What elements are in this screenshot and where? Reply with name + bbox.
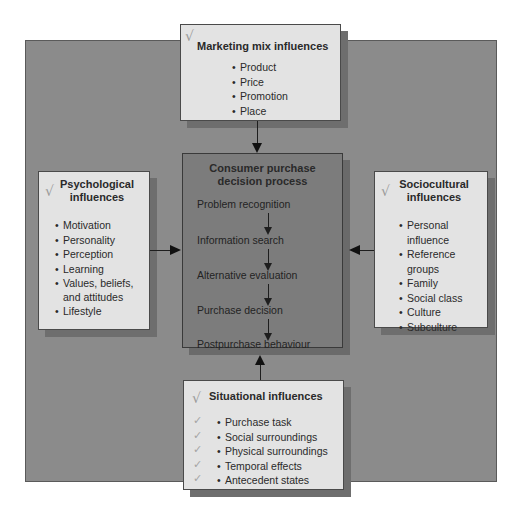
step-information-search: Information search [197,234,284,246]
arrow-situational-to-process [260,363,261,380]
sociocultural-box: √ Sociocultural influences Personal infl… [374,171,488,328]
marketing-mix-list: Product Price Promotion Place [232,60,288,118]
list-item-continuation: and attitudes [55,290,133,305]
psychological-box: √ Psychological influences Motivation Pe… [38,171,150,330]
list-item-text: Antecedent states [225,474,309,486]
list-item: ✓Purchase task [217,415,328,430]
list-item-continuation: groups [399,262,462,277]
check-mark-icon: √ [192,391,201,405]
list-item: Values, beliefs, [55,276,133,291]
list-item: Personality [55,233,133,248]
sociocultural-list: Personal influence Reference groups Fami… [399,218,462,334]
list-item: Motivation [55,218,133,233]
list-item: Promotion [232,89,288,104]
check-mark-icon: ✓ [193,429,202,444]
decision-process-title: Consumer purchase decision process [183,162,342,188]
list-item-continuation: influence [399,233,462,248]
list-item: Lifestyle [55,304,133,319]
list-item: Social class [399,291,462,306]
check-mark-icon: ✓ [193,472,202,487]
arrow-psychological-to-process [150,250,172,251]
arrow-head-up-icon [255,355,265,365]
list-item: Product [232,60,288,75]
step-purchase-decision: Purchase decision [197,304,283,316]
psychological-title: Psychological influences [39,178,149,204]
decision-process-box: Consumer purchase decision process Probl… [182,153,343,348]
marketing-mix-title: Marketing mix influences [197,40,328,53]
list-item: Place [232,104,288,119]
list-item: ✓Physical surroundings [217,444,328,459]
situational-list: ✓Purchase task ✓Social surroundings ✓Phy… [217,415,328,488]
step-alternative-evaluation: Alternative evaluation [197,269,297,281]
arrow-head-down-icon [252,143,262,153]
arrow-head-left-icon [349,245,360,255]
list-item-text: Social surroundings [225,431,317,443]
list-item-text: Purchase task [225,416,292,428]
psychological-list: Motivation Personality Perception Learni… [55,218,133,319]
list-item-text: Temporal effects [225,460,302,472]
sociocultural-title: Sociocultural influences [375,178,487,204]
step-arrow-icon [268,319,269,339]
situational-title: Situational influences [209,390,323,403]
title-line: influences [45,191,149,204]
step-postpurchase-behaviour: Postpurchase behaviour [197,338,310,350]
arrow-head-right-icon [170,245,181,255]
list-item: Culture [399,305,462,320]
list-item: ✓Temporal effects [217,459,328,474]
list-item: Family [399,276,462,291]
list-item: Subculture [399,320,462,335]
list-item-text: Physical surroundings [225,445,328,457]
check-mark-icon: ✓ [193,443,202,458]
marketing-mix-box: √ Marketing mix influences Product Price… [180,24,341,121]
check-mark-icon: √ [185,29,194,43]
list-item: ✓Social surroundings [217,430,328,445]
title-line: Psychological [45,178,149,191]
step-arrow-icon [268,249,269,269]
list-item: ✓Antecedent states [217,473,328,488]
title-line: Consumer purchase [183,162,342,175]
step-arrow-icon [268,284,269,304]
list-item: Personal [399,218,462,233]
check-mark-icon: ✓ [193,458,202,473]
arrow-marketing-to-process [257,121,258,145]
situational-box: √ Situational influences ✓Purchase task … [183,380,344,490]
step-problem-recognition: Problem recognition [197,198,290,210]
title-line: decision process [183,175,342,188]
list-item: Perception [55,247,133,262]
title-line: Sociocultural [381,178,487,191]
check-mark-icon: ✓ [193,414,202,429]
arrow-sociocultural-to-process [360,250,374,251]
title-line: influences [381,191,487,204]
list-item: Reference [399,247,462,262]
list-item: Price [232,75,288,90]
list-item: Learning [55,262,133,277]
step-arrow-icon [268,213,269,233]
